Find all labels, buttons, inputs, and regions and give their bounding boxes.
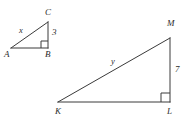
triangle-abc-shape	[11, 22, 48, 48]
side-length-label-7: 7	[175, 65, 180, 74]
triangles-diagram	[0, 0, 189, 125]
vertex-label-l: L	[167, 107, 172, 116]
vertex-label-m: M	[167, 19, 175, 28]
side-label-y: y	[111, 57, 115, 66]
right-angle-mark-b	[41, 41, 48, 48]
side-length-label-3: 3	[52, 28, 57, 37]
vertex-label-k: K	[55, 107, 61, 116]
geometry-figure-canvas: A B C x 3 K L M y 7	[0, 0, 189, 125]
side-label-x: x	[19, 26, 23, 35]
segment-ca	[11, 22, 48, 48]
vertex-label-c: C	[45, 8, 51, 17]
vertex-label-b: B	[45, 50, 51, 59]
right-angle-mark-l	[161, 93, 170, 102]
triangle-klm-shape	[58, 38, 170, 102]
segment-mk	[58, 38, 170, 102]
vertex-label-a: A	[4, 50, 10, 59]
